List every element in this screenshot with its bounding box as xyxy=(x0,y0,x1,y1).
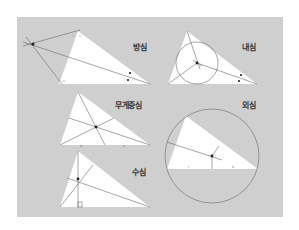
svg-text:o: o xyxy=(63,79,65,83)
excenter-figure: x x o xyxy=(23,30,150,84)
orthocenter-figure xyxy=(60,151,150,207)
triangle-centers-diagram: x x o ıı ıı xyxy=(0,0,299,230)
circumcenter-figure: ı ıı xyxy=(165,109,259,203)
label-orthocenter: 수심 xyxy=(132,166,145,177)
incenter-figure xyxy=(168,31,257,84)
circumcenter-point xyxy=(211,155,214,158)
svg-text:ıı: ıı xyxy=(123,143,125,148)
label-circumcenter: 외심 xyxy=(242,99,255,110)
svg-text:ıı: ıı xyxy=(232,164,234,169)
centroid-point xyxy=(95,126,98,129)
label-excenter: 방심 xyxy=(133,41,146,52)
label-centroid: 무게중심 xyxy=(115,99,142,110)
incenter-point xyxy=(196,62,199,65)
svg-text:ı: ı xyxy=(188,164,189,169)
label-incenter: 내심 xyxy=(242,41,255,52)
orthocenter-point xyxy=(77,178,80,181)
svg-text:x: x xyxy=(79,34,81,38)
svg-text:x: x xyxy=(72,34,74,38)
svg-text:ıı: ıı xyxy=(80,143,82,148)
excenter-point xyxy=(31,42,34,45)
